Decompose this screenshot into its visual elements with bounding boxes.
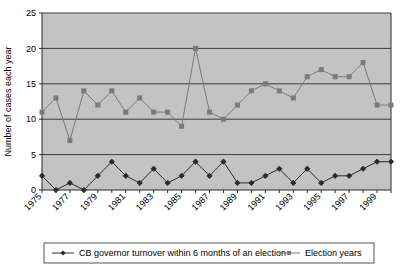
y-tick-label-10: 10 <box>26 114 36 124</box>
data-point <box>249 89 253 93</box>
data-point <box>40 110 44 114</box>
data-point <box>221 117 225 121</box>
data-point <box>389 103 393 107</box>
x-tick-label-1993: 1993 <box>273 191 294 212</box>
x-tick-label-1987: 1987 <box>190 191 211 212</box>
y-tick-label-5: 5 <box>31 150 36 160</box>
data-point <box>124 110 128 114</box>
x-tick-label-1975: 1975 <box>22 191 43 212</box>
y-axis-ticks: 0510152025 <box>26 8 42 195</box>
legend-label-1: CB governor turnover within 6 months of … <box>79 248 286 258</box>
x-tick-label-1977: 1977 <box>50 191 71 212</box>
data-point <box>194 46 198 50</box>
y-tick-label-25: 25 <box>26 8 36 18</box>
legend-marker-square-icon <box>287 251 291 255</box>
data-point <box>319 68 323 72</box>
data-point <box>166 110 170 114</box>
x-tick-label-1981: 1981 <box>106 191 127 212</box>
data-point <box>138 96 142 100</box>
x-tick-label-1997: 1997 <box>329 191 350 212</box>
x-tick-label-1983: 1983 <box>134 191 155 212</box>
y-tick-label-20: 20 <box>26 44 36 54</box>
data-point <box>361 61 365 65</box>
data-point <box>152 110 156 114</box>
data-point <box>54 96 58 100</box>
x-tick-label-1985: 1985 <box>162 191 183 212</box>
chart-container: 0510152025Number of cases each year19751… <box>0 0 401 269</box>
data-point <box>305 75 309 79</box>
data-point <box>96 103 100 107</box>
line-chart: 0510152025Number of cases each year19751… <box>0 0 401 269</box>
x-axis-ticks: 1975197719791981198319851987198919911993… <box>22 190 391 213</box>
data-point <box>375 103 379 107</box>
x-tick-label-1995: 1995 <box>301 191 322 212</box>
data-point <box>82 89 86 93</box>
x-tick-label-1979: 1979 <box>78 191 99 212</box>
data-point <box>180 124 184 128</box>
legend: CB governor turnover within 6 months of … <box>44 243 374 263</box>
data-point <box>110 89 114 93</box>
data-point <box>68 138 72 142</box>
x-tick-label-1999: 1999 <box>357 191 378 212</box>
x-tick-label-1989: 1989 <box>218 191 239 212</box>
y-axis-title: Number of cases each year <box>3 46 13 156</box>
data-point <box>208 110 212 114</box>
data-point <box>291 96 295 100</box>
data-point <box>263 82 267 86</box>
legend-label-2: Election years <box>305 248 362 258</box>
data-point <box>235 103 239 107</box>
y-tick-label-15: 15 <box>26 79 36 89</box>
data-point <box>277 89 281 93</box>
data-point <box>333 75 337 79</box>
x-tick-label-1991: 1991 <box>246 191 267 212</box>
data-point <box>347 75 351 79</box>
